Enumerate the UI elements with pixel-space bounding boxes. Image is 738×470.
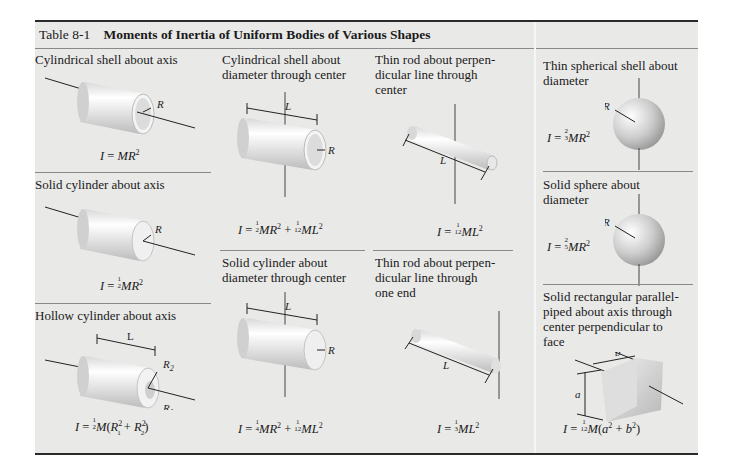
table-title: Moments of Inertia of Uniform Bodies of … xyxy=(104,27,431,42)
formula-rect-plate: I = 112M(a2 + b2) xyxy=(563,419,640,437)
svg-text:R: R xyxy=(327,144,335,156)
thin-rod-end-figure: L xyxy=(375,307,515,407)
cell-title-rod-center: Thin rod about perpen-dicular line throu… xyxy=(375,52,495,97)
formula-sph-shell: I = 23MR2 xyxy=(547,128,590,146)
svg-text:R1: R1 xyxy=(162,402,174,410)
row-divider xyxy=(35,303,211,304)
cell-title-rect-plate: Solid rectangular parallel-piped about a… xyxy=(543,289,679,349)
column-divider xyxy=(534,22,536,453)
svg-text:R: R xyxy=(605,216,610,228)
formula-hollow-cyl-axis: I = 12M(R21 + R22) xyxy=(75,417,148,437)
formula-solid-sphere: I = 25MR2 xyxy=(547,237,590,255)
thin-rod-center-figure: L xyxy=(375,104,515,204)
cylindrical-shell-axis-figure: R xyxy=(35,72,205,144)
radius-label: R xyxy=(156,98,164,110)
svg-text:L: L xyxy=(127,330,134,342)
formula-cyl-shell-axis: I = MR2 xyxy=(100,148,140,164)
svg-text:R: R xyxy=(605,100,610,112)
row-divider xyxy=(543,171,693,172)
formula-rod-end: I = 13ML2 xyxy=(437,419,479,437)
solid-cylinder-axis-figure: R xyxy=(35,197,205,267)
hollow-cylinder-axis-figure: L R2 R1 xyxy=(35,330,210,410)
table-number: Table 8-1 xyxy=(39,27,90,42)
cell-title-cyl-shell-diam: Cylindrical shell aboutdiameter through … xyxy=(222,52,346,82)
row-divider xyxy=(373,250,513,251)
svg-text:R: R xyxy=(327,344,335,356)
cell-title-rod-end: Thin rod about perpen-dicular line throu… xyxy=(375,255,495,300)
row-divider xyxy=(220,250,365,251)
solid-cylinder-diameter-figure: L R xyxy=(225,292,365,402)
spherical-shell-figure: R xyxy=(605,78,675,173)
formula-solid-cyl-axis: I = 12MR2 xyxy=(100,276,143,294)
solid-sphere-figure: R xyxy=(605,194,675,289)
svg-text:R: R xyxy=(154,223,162,235)
cell-title-hollow-cyl-axis: Hollow cylinder about axis xyxy=(35,308,176,323)
moments-of-inertia-table: Table 8-1 Moments of Inertia of Uniform … xyxy=(35,20,698,455)
formula-rod-center: I = 112ML2 xyxy=(437,222,483,240)
row-divider xyxy=(35,172,211,173)
svg-text:a: a xyxy=(575,388,581,400)
svg-text:L: L xyxy=(442,359,449,371)
svg-text:L: L xyxy=(439,154,446,166)
svg-text:b: b xyxy=(615,352,621,358)
svg-text:L: L xyxy=(284,100,291,112)
svg-text:L: L xyxy=(284,300,291,312)
cell-title-solid-cyl-diam: Solid cylinder aboutdiameter through cen… xyxy=(222,255,346,285)
formula-cyl-shell-diam: I = 12MR2 + 112ML2 xyxy=(238,220,323,238)
cylindrical-shell-diameter-figure: L R xyxy=(225,92,365,202)
cell-title-cyl-shell-axis: Cylindrical shell about axis xyxy=(35,52,178,67)
table-caption: Table 8-1 Moments of Inertia of Uniform … xyxy=(39,27,431,43)
cell-title-solid-cyl-axis: Solid cylinder about axis xyxy=(35,177,165,192)
formula-solid-cyl-diam: I = 14MR2 + 112ML2 xyxy=(238,419,323,437)
header-divider xyxy=(35,48,698,49)
svg-text:R2: R2 xyxy=(162,358,174,373)
row-divider xyxy=(543,284,693,285)
